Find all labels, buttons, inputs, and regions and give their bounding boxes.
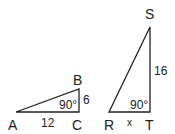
vertex-s-label: S [145, 6, 154, 22]
angle-c-label: 90° [59, 98, 77, 112]
vertex-c-label: C [72, 117, 82, 133]
angle-t-label: 90° [130, 98, 148, 112]
side-ac-label: 12 [41, 116, 55, 130]
vertex-a-label: A [8, 117, 18, 133]
diagram-canvas: A B C 12 6 90° S R T x 16 90° [0, 0, 175, 134]
side-bc-label: 6 [83, 93, 90, 107]
side-rt-label: x [127, 117, 132, 128]
vertex-b-label: B [73, 72, 82, 88]
side-st-label: 16 [154, 64, 168, 78]
vertex-r-label: R [104, 117, 114, 133]
vertex-t-label: T [145, 117, 154, 133]
